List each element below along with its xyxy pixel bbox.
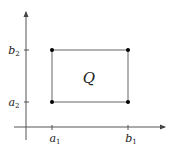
corner-point-bottom-left bbox=[50, 100, 54, 104]
y-tick-label-a2: a2 bbox=[8, 96, 19, 110]
rectangle-diagram: Q b2 a2 a1 b1 bbox=[0, 0, 175, 153]
y-tick-label-b2: b2 bbox=[8, 44, 20, 58]
region-label: Q bbox=[83, 69, 95, 87]
corner-point-top-right bbox=[126, 48, 130, 52]
corner-point-bottom-right bbox=[126, 100, 130, 104]
x-tick-label-b1: b1 bbox=[125, 132, 137, 146]
corner-point-top-left bbox=[50, 48, 54, 52]
x-tick-label-a1: a1 bbox=[49, 132, 60, 146]
